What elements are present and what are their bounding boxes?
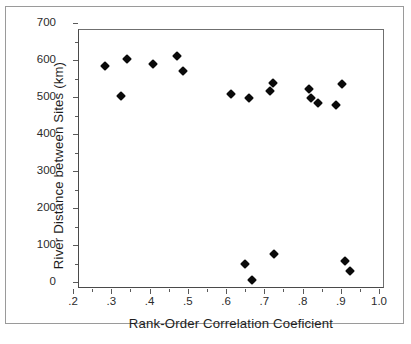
x-axis-tick <box>341 289 342 294</box>
x-axis-tick-label: .8 <box>288 295 318 307</box>
figure: River Distance between Sites (km) Rank-O… <box>0 0 411 344</box>
x-axis-tick <box>150 289 151 294</box>
y-axis-minor-tick <box>75 79 78 80</box>
y-axis-tick-label: 500 <box>16 91 56 102</box>
y-axis-minor-tick <box>75 227 78 228</box>
x-axis-tick <box>111 289 112 294</box>
y-axis-minor-tick <box>75 264 78 265</box>
y-axis-tick-label: 200 <box>16 202 56 213</box>
x-axis-tick <box>73 289 74 294</box>
y-axis-tick <box>73 23 78 24</box>
x-axis-tick-label: .2 <box>58 295 88 307</box>
x-axis-label: Rank-Order Correlation Coeficient <box>78 316 384 331</box>
y-axis-tick <box>73 134 78 135</box>
y-axis-tick <box>73 245 78 246</box>
figure-border: River Distance between Sites (km) Rank-O… <box>5 6 404 324</box>
x-axis-tick <box>226 289 227 294</box>
x-axis-tick-label: .4 <box>135 295 165 307</box>
y-axis-minor-tick <box>75 153 78 154</box>
y-axis-tick <box>73 208 78 209</box>
plot-area <box>78 29 384 288</box>
y-axis-tick <box>73 97 78 98</box>
x-axis-minor-tick <box>360 289 361 292</box>
x-axis-tick <box>188 289 189 294</box>
x-axis-tick-label: .3 <box>96 295 126 307</box>
y-axis-tick-label: 0 <box>16 276 56 287</box>
x-axis-minor-tick <box>169 289 170 292</box>
x-axis-tick <box>264 289 265 294</box>
x-axis-tick-label: .9 <box>326 295 356 307</box>
x-axis-tick-label: .7 <box>249 295 279 307</box>
y-axis-minor-tick <box>75 42 78 43</box>
x-axis-minor-tick <box>322 289 323 292</box>
y-axis-tick-label: 400 <box>16 128 56 139</box>
x-axis-minor-tick <box>92 289 93 292</box>
y-axis-tick-label: 600 <box>16 54 56 65</box>
y-axis-minor-tick <box>75 190 78 191</box>
x-axis-tick-label: .5 <box>173 295 203 307</box>
x-axis-tick <box>379 289 380 294</box>
y-axis-tick-label: 100 <box>16 239 56 250</box>
x-axis-minor-tick <box>130 289 131 292</box>
x-axis-tick-label: 1.0 <box>364 295 394 307</box>
y-axis-tick-label: 700 <box>16 17 56 28</box>
y-axis-tick <box>73 282 78 283</box>
y-axis-tick <box>73 171 78 172</box>
x-axis-tick-label: .6 <box>211 295 241 307</box>
x-axis-minor-tick <box>207 289 208 292</box>
x-axis-minor-tick <box>283 289 284 292</box>
y-axis-tick <box>73 60 78 61</box>
x-axis-minor-tick <box>245 289 246 292</box>
y-axis-tick-label: 300 <box>16 165 56 176</box>
x-axis-tick <box>303 289 304 294</box>
y-axis-minor-tick <box>75 116 78 117</box>
